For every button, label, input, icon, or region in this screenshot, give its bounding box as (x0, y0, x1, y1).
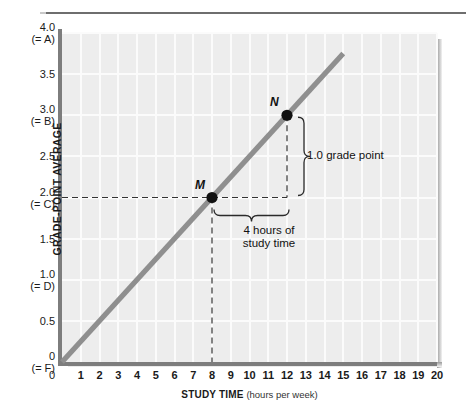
y-tick-label: 0.5 (9, 315, 55, 327)
annotation-run-line1: 4 hours of (226, 224, 312, 237)
x-axis-title-unit: (hours per week) (246, 389, 317, 400)
y-tick-label: 1.0(= D) (9, 268, 55, 292)
y-tick-label: 1.5 (9, 233, 55, 245)
y-tick-value: 0.5 (9, 315, 55, 327)
y-tick-value: 3.5 (9, 68, 55, 80)
y-tick-letter-grade: (= D) (9, 280, 55, 292)
y-tick-value: 2.5 (9, 150, 55, 162)
x-tick-label: 0 (40, 369, 64, 381)
y-tick-letter-grade: (= B) (9, 115, 55, 127)
y-tick-letter-grade: (= A) (9, 33, 55, 45)
plot-area: GRADE-POINT AVERAGE 4.0(= A)3.53.0(= B)2… (62, 33, 437, 362)
y-tick-value: 3.0 (9, 103, 55, 115)
y-tick-value: 1.0 (9, 268, 55, 280)
x-tick-label: 20 (425, 369, 449, 381)
data-overlay (62, 33, 437, 362)
x-axis-title-main: STUDY TIME (181, 389, 243, 400)
y-tick-label: 2.5 (9, 150, 55, 162)
point-label-n: N (270, 95, 279, 109)
point-marker-n (281, 110, 292, 121)
y-tick-label: 3.0(= B) (9, 103, 55, 127)
x-axis-title: STUDY TIME (hours per week) (62, 389, 437, 400)
x-axis-line (58, 362, 437, 366)
y-tick-label: 2.0(= C) (9, 186, 55, 210)
figure-grade-point-average-vs-study-time: GRADE-POINT AVERAGE 4.0(= A)3.53.0(= B)2… (0, 0, 474, 413)
y-tick-label: 4.0(= A) (9, 21, 55, 45)
data-line (62, 54, 343, 362)
annotation-run-line2: study time (226, 237, 312, 250)
point-label-m: M (195, 178, 205, 192)
point-marker-m (206, 192, 217, 203)
y-tick-value: 4.0 (9, 21, 55, 33)
top-divider-rule (46, 12, 466, 14)
y-tick-value: 0 (9, 350, 55, 362)
y-tick-value: 1.5 (9, 233, 55, 245)
y-tick-label: 3.5 (9, 68, 55, 80)
brace-run (214, 210, 289, 222)
annotation-run: 4 hours of study time (226, 224, 312, 250)
y-tick-value: 2.0 (9, 186, 55, 198)
annotation-rise: 1.0 grade point (307, 149, 384, 162)
y-tick-letter-grade: (= C) (9, 198, 55, 210)
